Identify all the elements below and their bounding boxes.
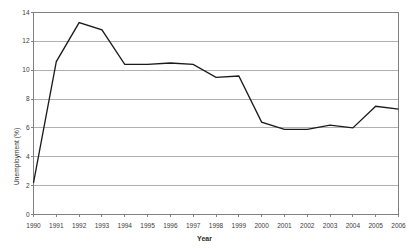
gridlines [34,13,399,186]
unemployment-line-chart: Unemployment (%) 02468101214 19901991199… [0,0,409,250]
plot-area [0,0,409,250]
axis-tick-marks [31,13,399,218]
data-series-line [34,23,399,183]
x-axis-title: Year [0,235,409,242]
plot-frame [34,13,399,215]
